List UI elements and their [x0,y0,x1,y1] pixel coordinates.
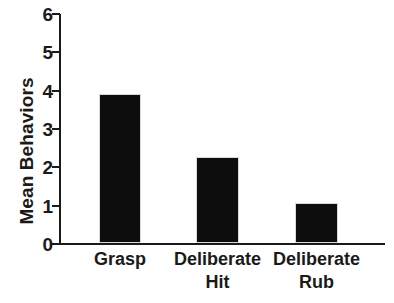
x-axis-label-line: Deliberate [257,248,377,271]
x-axis-label-deliberate-rub: DeliberateRub [257,248,377,294]
y-tick-2 [52,166,60,168]
bar-grasp [99,94,141,244]
y-tick-3 [52,128,60,130]
y-tick-label-3: 3 [42,120,53,139]
y-tick-0 [52,243,60,245]
x-axis-spine [53,243,385,245]
bar-chart: Mean Behaviors 0123456 GraspDeliberateHi… [0,0,394,303]
y-tick-label-0: 0 [42,235,53,254]
bar-deliberate-rub [295,203,338,243]
x-axis-label-line: Rub [257,271,377,294]
y-tick-label-4: 4 [42,81,53,100]
y-tick-6 [52,13,60,15]
y-axis-title: Mean Behaviors [16,66,38,236]
y-tick-label-6: 6 [42,5,53,24]
bar-deliberate-hit [196,157,239,243]
y-tick-label-5: 5 [42,43,53,62]
y-tick-label-1: 1 [42,196,53,215]
plot-area: 0123456 [59,14,385,244]
y-tick-label-2: 2 [42,158,53,177]
